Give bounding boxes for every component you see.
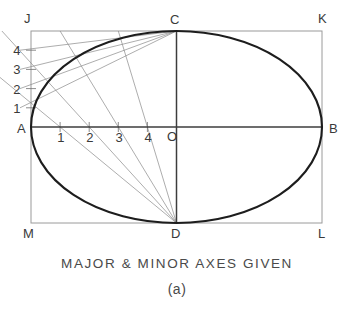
label-point-k: K	[318, 11, 327, 26]
label-point-d: D	[171, 226, 181, 241]
label-point-j: J	[24, 11, 31, 26]
label-vertical-division-4: 4	[13, 43, 21, 58]
label-vertical-division-1: 1	[13, 101, 21, 116]
label-point-c: C	[170, 12, 180, 27]
label-horizontal-division-4: 4	[145, 130, 153, 145]
label-horizontal-division-3: 3	[115, 130, 123, 145]
figure-svg: J K L M C D A B O 1234 1234 MAJOR & MINO…	[0, 0, 354, 313]
label-vertical-division-2: 2	[13, 82, 21, 97]
horizontal-division-labels: 1234	[57, 130, 152, 145]
division-tick-marks	[26, 50, 147, 132]
ellipse-construction-figure: J K L M C D A B O 1234 1234 MAJOR & MINO…	[0, 0, 354, 313]
label-point-m: M	[23, 226, 34, 241]
vertical-division-labels: 1234	[13, 43, 21, 116]
label-horizontal-division-1: 1	[57, 130, 65, 145]
label-point-o: O	[167, 129, 178, 144]
label-vertical-division-3: 3	[13, 62, 21, 77]
label-point-l: L	[318, 226, 326, 241]
construction-line-c-to-1	[20, 31, 177, 108]
construction-line-c-to-4	[20, 31, 177, 50]
figure-subcaption: (a)	[168, 281, 187, 297]
label-horizontal-division-2: 2	[86, 130, 94, 145]
construction-line-c-to-2	[20, 31, 177, 89]
label-point-b: B	[329, 121, 338, 136]
label-point-a: A	[17, 121, 26, 136]
figure-caption: MAJOR & MINOR AXES GIVEN	[61, 256, 293, 271]
construction-line-c-to-3	[20, 31, 177, 69]
